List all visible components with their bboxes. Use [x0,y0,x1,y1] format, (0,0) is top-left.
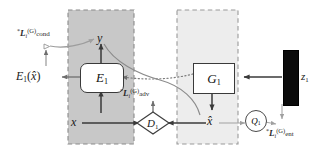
cond-loss-label: *Li(G)cond [17,28,50,39]
encoder-output-label: E1(x̂) [16,70,40,83]
label-x-input: x [71,116,76,128]
encoder-label: E1 [96,70,108,86]
q-head-label: Q1 [251,116,260,126]
cond-loss-connector-icon [44,44,50,49]
encoder-node[interactable]: E1 [80,63,124,93]
q-head-node[interactable]: Q1 [245,110,267,132]
generator-label: G1 [207,71,220,87]
label-y: y [97,32,102,44]
discriminator-label: D1 [147,118,158,130]
generator-node[interactable]: G1 [193,63,235,94]
figure-canvas: E1 G1 Q1 D1 z1 y x x̂ E1(x̂) *Li(G)cond … [0,0,318,155]
adv-loss-label: *Li(G)adv [120,88,149,99]
label-x-generated: x̂ [207,115,212,127]
latent-label: z1 [301,71,309,83]
ent-loss-label: *Li(G)ent [266,128,294,139]
latent-node[interactable] [283,50,299,106]
